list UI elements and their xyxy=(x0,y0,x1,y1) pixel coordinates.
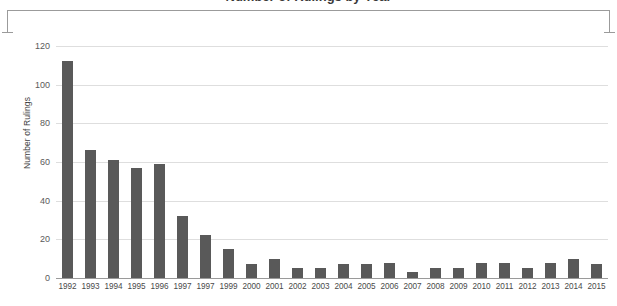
bar xyxy=(568,259,579,278)
bar xyxy=(453,268,464,278)
x-axis-tick-label: 2001 xyxy=(263,282,286,291)
x-axis-tick-label: 1996 xyxy=(148,282,171,291)
x-axis-tick-label: 2010 xyxy=(470,282,493,291)
x-axis-tick-label: 1992 xyxy=(56,282,79,291)
x-axis-tick-label: 2015 xyxy=(585,282,608,291)
bar xyxy=(545,263,556,278)
bar xyxy=(177,216,188,278)
y-axis-tick-label: 40 xyxy=(24,196,50,206)
bar xyxy=(200,235,211,278)
y-axis-tick-label: 100 xyxy=(24,80,50,90)
x-axis-tick-label: 1997 xyxy=(194,282,217,291)
x-axis-tick-label: 2007 xyxy=(401,282,424,291)
x-axis-tick-label: 2014 xyxy=(562,282,585,291)
y-axis-tick-label: 0 xyxy=(24,273,50,283)
x-axis-tick-label: 1999 xyxy=(217,282,240,291)
y-axis-tick-label: 20 xyxy=(24,234,50,244)
bar xyxy=(269,259,280,278)
bar-chart: Number of Rulings 020406080100120 199219… xyxy=(0,0,617,306)
bar xyxy=(246,264,257,278)
x-axis-tick-label: 1994 xyxy=(102,282,125,291)
x-axis-tick-label: 1995 xyxy=(125,282,148,291)
y-axis-title: Number of Rulings xyxy=(22,78,32,188)
y-axis-tick-label: 120 xyxy=(24,41,50,51)
bar xyxy=(223,249,234,278)
x-axis-baseline xyxy=(56,278,608,279)
x-axis-tick-label: 2006 xyxy=(378,282,401,291)
bar xyxy=(292,268,303,278)
x-axis-tick-label: 2012 xyxy=(516,282,539,291)
bar xyxy=(108,160,119,278)
x-axis-tick-label: 2013 xyxy=(539,282,562,291)
bar xyxy=(338,264,349,278)
x-axis-tick-label: 2003 xyxy=(309,282,332,291)
bar xyxy=(154,164,165,278)
bar xyxy=(476,263,487,278)
bar xyxy=(131,168,142,278)
y-axis-tick-label: 80 xyxy=(24,118,50,128)
y-axis-tick-label: 60 xyxy=(24,157,50,167)
bar xyxy=(522,268,533,278)
x-axis-tick-label: 2005 xyxy=(355,282,378,291)
bar xyxy=(361,264,372,278)
bar xyxy=(384,263,395,278)
bar xyxy=(407,272,418,278)
x-axis-tick-label: 2009 xyxy=(447,282,470,291)
x-axis-tick-label: 1997 xyxy=(171,282,194,291)
bar-series xyxy=(56,46,608,278)
x-axis-tick-label: 2011 xyxy=(493,282,516,291)
x-axis-tick-labels: 1992199319941995199619971997199920002001… xyxy=(56,282,608,298)
bar xyxy=(499,263,510,278)
x-axis-tick-label: 2002 xyxy=(286,282,309,291)
x-axis-tick-label: 2008 xyxy=(424,282,447,291)
bar xyxy=(85,150,96,278)
x-axis-tick-label: 2004 xyxy=(332,282,355,291)
x-axis-tick-label: 1993 xyxy=(79,282,102,291)
bar xyxy=(315,268,326,278)
x-axis-tick-label: 2000 xyxy=(240,282,263,291)
bar xyxy=(591,264,602,278)
bar xyxy=(430,268,441,278)
bar xyxy=(62,61,73,278)
